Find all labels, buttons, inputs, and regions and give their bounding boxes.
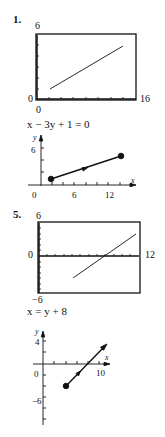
sketch-5 [0,0,165,437]
